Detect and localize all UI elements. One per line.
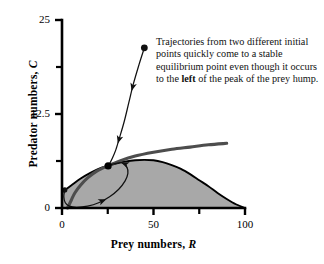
trajectory-direction-arrow xyxy=(128,82,136,91)
y-tick-label: 0 xyxy=(0,201,50,213)
annotation-text: Trajectories from two different initial … xyxy=(156,36,322,86)
y-axis-title-text: Predator numbers, xyxy=(27,68,39,167)
predator-prey-phase-plane-figure: 012.525050100 Trajectories from two diff… xyxy=(0,0,324,264)
annotation-line-1: Trajectories from two different xyxy=(156,36,282,47)
annotation-line-4-post: of xyxy=(196,73,207,84)
trajectory-direction-arrow xyxy=(115,135,124,145)
y-tick-label: 12.5 xyxy=(0,107,50,119)
x-tick-label: 0 xyxy=(37,218,87,230)
x-tick-label: 100 xyxy=(220,218,270,230)
x-axis-title: Prey numbers, R xyxy=(62,238,245,250)
x-axis-title-text: Prey numbers, xyxy=(111,238,189,250)
y-tick-label: 25 xyxy=(0,13,50,25)
x-axis-title-symbol: R xyxy=(188,238,196,250)
prey-isocline-area xyxy=(62,160,245,208)
annotation-line-5: the peak of the prey hump. xyxy=(209,73,318,84)
annotation-emphasis-left: left xyxy=(181,73,195,84)
y-axis-title: Predator numbers, C xyxy=(27,19,39,209)
x-tick-label: 50 xyxy=(129,218,179,230)
equilibrium-point-marker xyxy=(105,162,112,169)
trajectory-start-point xyxy=(141,44,148,51)
y-axis-title-symbol: C xyxy=(27,60,39,68)
